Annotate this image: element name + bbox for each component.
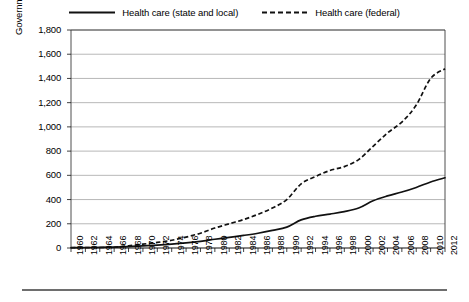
x-axis-tick-label: 2006 <box>406 236 416 255</box>
y-axis-ticks <box>67 30 71 248</box>
x-axis-tick-label: 1960 <box>75 236 85 255</box>
x-axis-tick-label: 2000 <box>363 236 373 255</box>
x-axis-tick-label: 1962 <box>89 236 99 255</box>
y-axis-tick-label: 200 <box>19 219 61 229</box>
y-axis-tick-label: 600 <box>19 170 61 180</box>
x-axis-tick-label: 1990 <box>291 236 301 255</box>
x-axis-tick-label: 1972 <box>161 236 171 255</box>
y-axis-tick-label: 1,000 <box>19 122 61 132</box>
x-axis-tick-label: 1998 <box>348 236 358 255</box>
x-axis-tick-label: 2008 <box>420 236 430 255</box>
x-axis-tick-label: 1980 <box>219 236 229 255</box>
x-axis-tick-label: 1968 <box>133 236 143 255</box>
y-axis-tick-label: 1,800 <box>19 25 61 35</box>
series-line-federal <box>71 69 445 248</box>
y-axis-tick-label: 1,400 <box>19 73 61 83</box>
chart-figure: Health care (state and local) Health car… <box>0 0 469 302</box>
x-axis-tick-label: 1978 <box>204 236 214 255</box>
x-axis-tick-label: 1966 <box>118 236 128 255</box>
x-axis-tick-label: 1996 <box>334 236 344 255</box>
x-axis-tick-label: 1986 <box>262 236 272 255</box>
y-axis-tick-label: 0 <box>19 243 61 253</box>
x-axis-tick-label: 1974 <box>176 236 186 255</box>
y-axis-tick-label: 1,600 <box>19 49 61 59</box>
x-axis-tick-label: 1964 <box>104 236 114 255</box>
x-axis-tick-label: 1976 <box>190 236 200 255</box>
plot-frame <box>71 30 445 248</box>
x-axis-tick-label: 2010 <box>435 236 445 255</box>
plot-area <box>0 0 469 302</box>
x-axis-tick-label: 1970 <box>147 236 157 255</box>
x-axis-tick-label: 2012 <box>449 236 459 255</box>
x-axis-tick-label: 1982 <box>233 236 243 255</box>
x-axis-tick-label: 1988 <box>276 236 286 255</box>
footer-divider <box>22 289 447 291</box>
x-axis-tick-label: 1994 <box>320 236 330 255</box>
y-axis-tick-label: 1,200 <box>19 98 61 108</box>
x-axis-tick-label: 2002 <box>377 236 387 255</box>
x-axis-tick-label: 2004 <box>391 236 401 255</box>
x-axis-tick-label: 1984 <box>248 236 258 255</box>
x-axis-tick-label: 1992 <box>305 236 315 255</box>
y-axis-tick-label: 800 <box>19 146 61 156</box>
y-axis-tick-label: 400 <box>19 195 61 205</box>
